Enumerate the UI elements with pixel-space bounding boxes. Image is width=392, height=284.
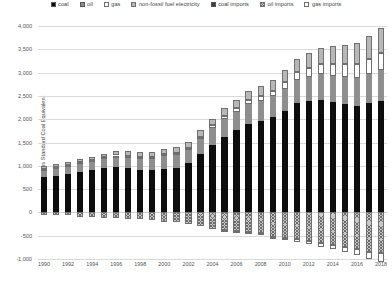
bar-segment-gas (185, 148, 191, 150)
bar-segment-coal (354, 106, 360, 212)
legend-item-label: gas imports (312, 2, 341, 8)
bar-segment-gas (318, 64, 324, 75)
bar-column[interactable] (137, 26, 143, 259)
legend-swatch-icon (260, 2, 265, 7)
bar-segment-non-fossil-fuel-electricity (378, 28, 384, 52)
bar-column[interactable] (294, 26, 300, 259)
gridline (38, 259, 387, 260)
bar-segment-coal (185, 163, 191, 212)
bar-segment-gas-imports (270, 237, 276, 239)
legend-item-oil-imports[interactable]: oil imports (260, 2, 294, 8)
y-tick-label: 3,000 (18, 70, 32, 76)
bar-segment-gas (282, 82, 288, 89)
bar-column[interactable] (245, 26, 251, 259)
bar-column[interactable] (197, 26, 203, 259)
bar-segment-oil-imports (101, 212, 107, 217)
bar-column[interactable] (149, 26, 155, 259)
bar-column[interactable] (354, 26, 360, 259)
bar-segment-gas (306, 68, 312, 77)
bar-column[interactable] (342, 26, 348, 259)
x-tick-label: 2002 (182, 261, 194, 267)
bar-segment-gas (53, 167, 59, 169)
bar-column[interactable] (89, 26, 95, 259)
bar-segment-gas (41, 169, 47, 171)
bar-segment-gas (233, 108, 239, 112)
bar-column[interactable] (173, 26, 179, 259)
bar-segment-oil (197, 139, 203, 154)
bar-segment-coal (270, 117, 276, 212)
bar-segment-oil (185, 149, 191, 163)
bar-column[interactable] (41, 26, 47, 259)
bar-segment-oil-imports (125, 212, 131, 219)
bar-segment-oil-imports (41, 212, 47, 214)
bar-segment-coal (245, 124, 251, 213)
bar-segment-coal (282, 111, 288, 212)
bar-column[interactable] (65, 26, 71, 259)
bar-column[interactable] (161, 26, 167, 259)
y-axis-tick-labels: 4,0003,5003,0002,5002,0001,5001,0005000-… (0, 26, 34, 259)
x-tick-label: 1992 (62, 261, 74, 267)
bar-column[interactable] (330, 26, 336, 259)
bar-column[interactable] (53, 26, 59, 259)
bar-column[interactable] (101, 26, 107, 259)
legend-swatch-icon (51, 2, 56, 7)
legend-item-coal-imports[interactable]: coal imports (211, 2, 249, 8)
bar-segment-oil-imports (258, 212, 264, 233)
bar-column[interactable] (185, 26, 191, 259)
bar-segment-coal (330, 102, 336, 212)
bar-segment-oil (354, 78, 360, 106)
y-tick-label: 1,500 (18, 140, 32, 146)
bar-segment-oil-imports (245, 212, 251, 232)
bar-segment-coal (113, 167, 119, 213)
bar-segment-gas-imports (306, 241, 312, 244)
bar-segment-non-fossil-fuel-electricity (282, 70, 288, 82)
bar-segment-non-fossil-fuel-electricity (342, 45, 348, 65)
bar-column[interactable] (233, 26, 239, 259)
bar-segment-coal (221, 137, 227, 212)
legend-item-gas-imports[interactable]: gas imports (304, 2, 341, 8)
bar-column[interactable] (77, 26, 83, 259)
bar-column[interactable] (318, 26, 324, 259)
bar-segment-oil-imports (282, 212, 288, 238)
bar-segment-oil (65, 166, 71, 174)
legend-item-gas[interactable]: gas (104, 2, 121, 8)
bar-segment-oil-imports (65, 212, 71, 215)
bar-column[interactable] (209, 26, 215, 259)
bar-column[interactable] (125, 26, 131, 259)
bar-segment-gas (270, 91, 276, 97)
bar-column[interactable] (306, 26, 312, 259)
bar-segment-oil-imports (318, 212, 324, 243)
x-tick-label: 2018 (375, 261, 387, 267)
bar-segment-oil-imports (209, 212, 215, 228)
bar-segment-non-fossil-fuel-electricity (113, 151, 119, 155)
bar-column[interactable] (270, 26, 276, 259)
bar-segment-gas (113, 156, 119, 158)
bar-segment-coal (89, 170, 95, 212)
bar-column[interactable] (378, 26, 384, 259)
bar-segment-gas (89, 160, 95, 162)
bar-segment-coal (366, 103, 372, 212)
bar-column[interactable] (221, 26, 227, 259)
bar-segment-non-fossil-fuel-electricity (149, 152, 155, 157)
x-tick-label: 1998 (134, 261, 146, 267)
bar-segment-oil (173, 154, 179, 167)
bar-column[interactable] (282, 26, 288, 259)
y-tick-label: 0 (29, 209, 32, 215)
legend-swatch-icon (304, 2, 309, 7)
bar-column[interactable] (258, 26, 264, 259)
x-tick-label: 1996 (110, 261, 122, 267)
bar-segment-oil (77, 163, 83, 172)
bar-segment-gas (209, 125, 215, 128)
legend-item-oil[interactable]: oil (80, 2, 93, 8)
bar-segment-non-fossil-fuel-electricity (221, 108, 227, 116)
bar-segment-non-fossil-fuel-electricity (101, 154, 107, 158)
bar-segment-non-fossil-fuel-electricity (306, 53, 312, 67)
bar-segment-gas (366, 59, 372, 74)
legend-item-non-fossil-fuel-electricity[interactable]: non-fossil fuel electricity (131, 2, 199, 8)
legend-swatch-icon (104, 2, 109, 7)
x-tick-label: 2000 (158, 261, 170, 267)
bar-column[interactable] (113, 26, 119, 259)
bar-column[interactable] (366, 26, 372, 259)
legend-item-coal[interactable]: coal (51, 2, 69, 8)
bar-segment-oil-imports (330, 212, 336, 244)
